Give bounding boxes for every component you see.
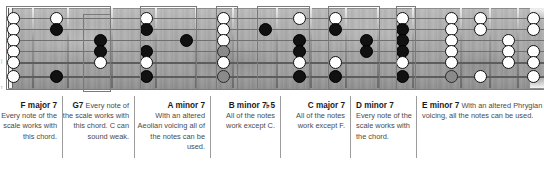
caption-paragraph: A minor 7With an altered Aeolian voicing… (134, 101, 205, 152)
edge-mark-bottom: r (1, 84, 3, 90)
caption-b-minor-7-flat-5: B minor 7♭5All of the notes work except … (210, 96, 280, 175)
caption-a-minor-7: A minor 7With an altered Aeolian voicing… (134, 96, 210, 175)
edge-mark-top: | (1, 58, 2, 64)
caption-g7: G7 Every note of the scale works with th… (62, 96, 134, 175)
voicing-box (396, 6, 416, 90)
fretboard-chord-chart: | r F major 7Every note of the scale wor… (0, 0, 544, 175)
caption-d-minor-7: D minor 7Every note of the scale works w… (350, 96, 416, 175)
note-dot-white (474, 23, 487, 36)
caption-strip: F major 7Every note of the scale works w… (0, 96, 544, 175)
caption-divider (416, 96, 417, 158)
caption-paragraph: B minor 7♭5All of the notes work except … (210, 101, 275, 132)
caption-f-major-7: F major 7Every note of the scale works w… (0, 96, 62, 175)
caption-text: Every note of the scale works with the c… (356, 111, 412, 140)
chord-label: A minor 7 (168, 101, 205, 110)
chord-label: E minor 7 (422, 101, 459, 110)
chord-label: D minor 7 (356, 101, 394, 110)
note-dot-white (527, 70, 540, 83)
note-dot-white (445, 56, 458, 69)
caption-e-minor-7: E minor 7 With an altered Phrygian voici… (416, 96, 544, 175)
voicing-box (257, 6, 310, 90)
note-dot-white (527, 56, 540, 69)
note-dot-white (474, 70, 487, 83)
chord-label: G7 (72, 101, 83, 110)
chord-label: F major 7 (21, 101, 57, 110)
caption-paragraph: D minor 7Every note of the scale works w… (356, 101, 416, 142)
caption-text: All of the notes work except C. (226, 111, 275, 130)
chord-label: B minor 7♭5 (229, 101, 275, 110)
note-dot-gray (445, 70, 458, 83)
caption-paragraph: F major 7Every note of the scale works w… (0, 101, 57, 142)
caption-paragraph: C major 7All of the notes work except F. (280, 101, 345, 132)
caption-paragraph: G7 Every note of the scale works with th… (62, 101, 129, 142)
voicing-box (140, 6, 197, 90)
note-dot-white (527, 23, 540, 36)
caption-c-major-7: C major 7All of the notes work except F. (280, 96, 350, 175)
caption-paragraph: E minor 7 With an altered Phrygian voici… (422, 101, 544, 121)
caption-divider (280, 96, 281, 158)
voicing-box (83, 14, 111, 92)
voicing-box (328, 6, 380, 90)
chord-label: C major 7 (308, 101, 345, 110)
caption-divider (350, 96, 351, 158)
caption-divider (134, 96, 135, 158)
note-dot-white (502, 56, 515, 69)
caption-divider (62, 96, 63, 158)
fretboard-diagram: | r (0, 0, 544, 95)
caption-text: Every note of the scale works with this … (1, 111, 57, 140)
caption-text: All of the notes work except F. (296, 111, 345, 130)
caption-divider (210, 96, 211, 158)
voicing-box (216, 6, 238, 90)
caption-text: With an altered Aeolian voicing all of t… (138, 111, 205, 151)
